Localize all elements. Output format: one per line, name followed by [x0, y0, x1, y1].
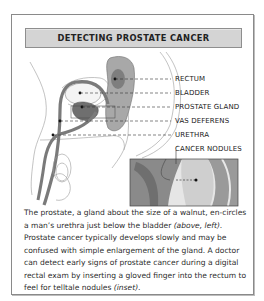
- caption-part-3: .: [138, 283, 140, 292]
- caption-ref-above-left: (above, left): [174, 221, 220, 230]
- label-vas-deferens: VAS DEFERENS: [175, 117, 229, 125]
- caption-ref-inset: (inset): [114, 283, 138, 292]
- caption-text: The prostate, a gland about the size of …: [24, 207, 248, 295]
- prostate-shape: [72, 102, 98, 120]
- label-cancer-nodules: CANCER NODULES: [175, 145, 242, 153]
- caption-part-2: . Prostate cancer typically develops slo…: [24, 221, 246, 293]
- label-bladder: BLADDER: [175, 89, 209, 97]
- inset-illustration: [130, 150, 238, 206]
- label-prostate-gland: PROSTATE GLAND: [175, 103, 239, 111]
- rectum-shape: [106, 56, 135, 130]
- label-urethra: URETHRA: [175, 131, 209, 139]
- label-rectum: RECTUM: [175, 75, 205, 83]
